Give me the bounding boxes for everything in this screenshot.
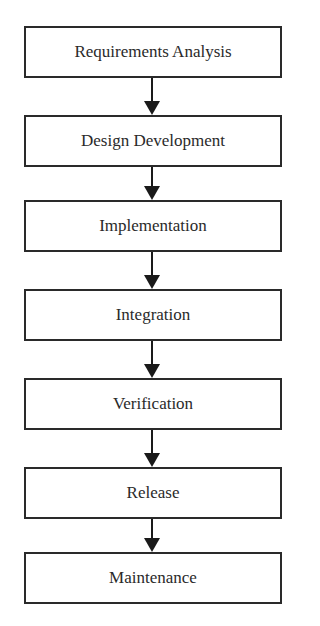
arrow-line [151, 78, 153, 102]
step-label: Requirements Analysis [74, 42, 231, 62]
arrow-line [151, 252, 153, 276]
step-requirements-analysis: Requirements Analysis [24, 26, 282, 78]
arrow-down-icon [144, 186, 160, 200]
arrow-down-icon [144, 101, 160, 115]
arrow-down-icon [144, 538, 160, 552]
step-verification: Verification [24, 378, 282, 430]
arrow-down-icon [144, 275, 160, 289]
step-maintenance: Maintenance [24, 552, 282, 604]
step-label: Release [127, 483, 180, 503]
step-design-development: Design Development [24, 115, 282, 167]
step-integration: Integration [24, 289, 282, 341]
step-label: Verification [113, 394, 193, 414]
arrow-down-icon [144, 364, 160, 378]
arrow-line [151, 167, 153, 187]
step-label: Implementation [99, 216, 207, 236]
arrow-line [151, 341, 153, 365]
arrow-line [151, 519, 153, 539]
arrow-down-icon [144, 453, 160, 467]
step-label: Integration [116, 305, 191, 325]
step-label: Design Development [81, 131, 225, 151]
step-release: Release [24, 467, 282, 519]
step-label: Maintenance [109, 568, 197, 588]
step-implementation: Implementation [24, 200, 282, 252]
arrow-line [151, 430, 153, 454]
